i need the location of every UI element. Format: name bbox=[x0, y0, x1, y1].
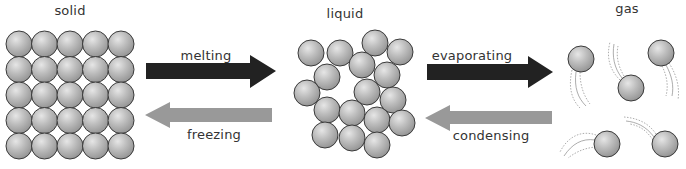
solid-particle bbox=[83, 31, 109, 57]
solid-particle bbox=[108, 108, 134, 134]
solid-particle bbox=[57, 31, 83, 57]
solid-particle bbox=[57, 108, 83, 134]
solid-particle bbox=[83, 82, 109, 108]
gas-particle bbox=[594, 131, 620, 157]
solid-particle bbox=[57, 133, 83, 159]
gas-particle bbox=[652, 131, 678, 157]
solid-particle bbox=[57, 82, 83, 108]
solid-particle bbox=[83, 108, 109, 134]
gas-particle bbox=[568, 46, 594, 72]
solid-particle bbox=[32, 108, 58, 134]
solid-particle bbox=[108, 31, 134, 57]
solid-particle bbox=[108, 82, 134, 108]
liquid-label: liquid bbox=[327, 7, 364, 20]
liquid-particle bbox=[349, 52, 375, 78]
solid-particle bbox=[83, 133, 109, 159]
liquid-particle bbox=[364, 132, 390, 158]
liquid-particle bbox=[364, 107, 390, 133]
solid-particle bbox=[6, 133, 32, 159]
liquid-particles bbox=[294, 30, 415, 158]
liquid-particle bbox=[339, 100, 365, 126]
evaporating-label: evaporating bbox=[432, 49, 513, 62]
solid-particle bbox=[32, 57, 58, 83]
solid-particle bbox=[57, 57, 83, 83]
states-of-matter-diagram: solid liquid gas melting freezing evapor… bbox=[0, 0, 686, 169]
solid-particle bbox=[108, 133, 134, 159]
solid-particle bbox=[83, 57, 109, 83]
gas-particles bbox=[568, 40, 678, 157]
diagram-canvas bbox=[0, 0, 686, 169]
freezing-arrow bbox=[145, 102, 272, 128]
gas-label: gas bbox=[615, 2, 639, 15]
gas-particle bbox=[618, 75, 644, 101]
solid-particles bbox=[6, 31, 134, 159]
solid-particle bbox=[6, 108, 32, 134]
solid-particle bbox=[6, 31, 32, 57]
liquid-particle bbox=[314, 97, 340, 123]
solid-particle bbox=[6, 82, 32, 108]
gas-particle bbox=[648, 40, 674, 66]
solid-particle bbox=[6, 57, 32, 83]
solid-particle bbox=[32, 31, 58, 57]
solid-particle bbox=[32, 82, 58, 108]
solid-particle bbox=[108, 57, 134, 83]
liquid-particle bbox=[312, 122, 338, 148]
liquid-particle bbox=[389, 110, 415, 136]
liquid-particle bbox=[298, 40, 324, 66]
condensing-label: condensing bbox=[453, 129, 530, 142]
melting-label: melting bbox=[181, 49, 232, 62]
solid-label: solid bbox=[54, 4, 85, 17]
freezing-label: freezing bbox=[187, 128, 241, 141]
solid-particle bbox=[32, 133, 58, 159]
liquid-particle bbox=[339, 125, 365, 151]
liquid-particle bbox=[387, 39, 413, 65]
